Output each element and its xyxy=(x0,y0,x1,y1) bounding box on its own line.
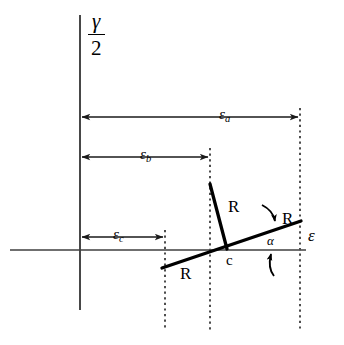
dimension-label-epsilon-c-subscript: c xyxy=(119,233,124,244)
figure-canvas xyxy=(0,0,344,345)
point-label-c: c xyxy=(226,253,233,268)
dotted-guides-group xyxy=(165,108,300,330)
x-axis-label: ε xyxy=(308,227,315,244)
figure-root: γ 2 ε εa εb εc R R R c α xyxy=(0,0,344,345)
curved-arrow-lower xyxy=(270,254,274,276)
segment-label-R-left: R xyxy=(180,265,191,282)
segment-label-R-right: R xyxy=(282,210,293,227)
angle-label-alpha: α xyxy=(267,234,274,247)
dimension-label-epsilon-a-subscript: a xyxy=(225,113,230,124)
segment-R-steep xyxy=(210,184,227,249)
dimension-label-epsilon-b: εb xyxy=(140,147,151,164)
dimension-arrows-group xyxy=(82,117,298,237)
y-axis-label-numerator: γ xyxy=(88,10,105,33)
axes-group xyxy=(10,15,306,310)
y-axis-label: γ 2 xyxy=(88,10,105,59)
curved-arrow-upper xyxy=(262,205,275,221)
y-axis-label-denominator: 2 xyxy=(88,36,105,59)
dimension-label-epsilon-a: εa xyxy=(219,107,230,124)
dimension-label-epsilon-b-subscript: b xyxy=(146,153,151,164)
segment-label-R-steep: R xyxy=(228,198,239,215)
dimension-label-epsilon-c: εc xyxy=(113,227,124,244)
fraction-bar xyxy=(88,34,105,35)
